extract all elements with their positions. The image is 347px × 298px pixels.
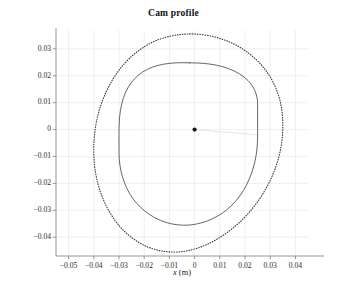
y-tick-label: 0 — [47, 124, 51, 133]
y-tick-label: −0.02 — [33, 178, 51, 187]
y-tick-label: 0.02 — [38, 71, 51, 80]
y-tick-label: −0.01 — [33, 151, 51, 160]
x-axis-label: x (m) — [56, 268, 308, 277]
y-tick-label: 0.03 — [38, 44, 51, 53]
chart-svg — [0, 0, 347, 298]
y-tick-label: 0.01 — [38, 97, 51, 106]
y-tick-label: −0.04 — [33, 232, 51, 241]
center-point — [193, 127, 197, 131]
chart-figure: Cam profile 0.030.020.010−0.01−0.02−0.03… — [0, 0, 347, 298]
series-cam-profile — [119, 63, 258, 226]
radius-line — [195, 130, 258, 135]
y-tick-label: −0.03 — [33, 205, 51, 214]
series-pitch-curve — [94, 34, 283, 252]
x-axis-label-unit: (m) — [177, 268, 191, 277]
plot-area: 0.030.020.010−0.01−0.02−0.03−0.04−0.05−0… — [0, 0, 347, 298]
grid-lines — [56, 30, 308, 256]
axis-ticks — [53, 49, 296, 259]
